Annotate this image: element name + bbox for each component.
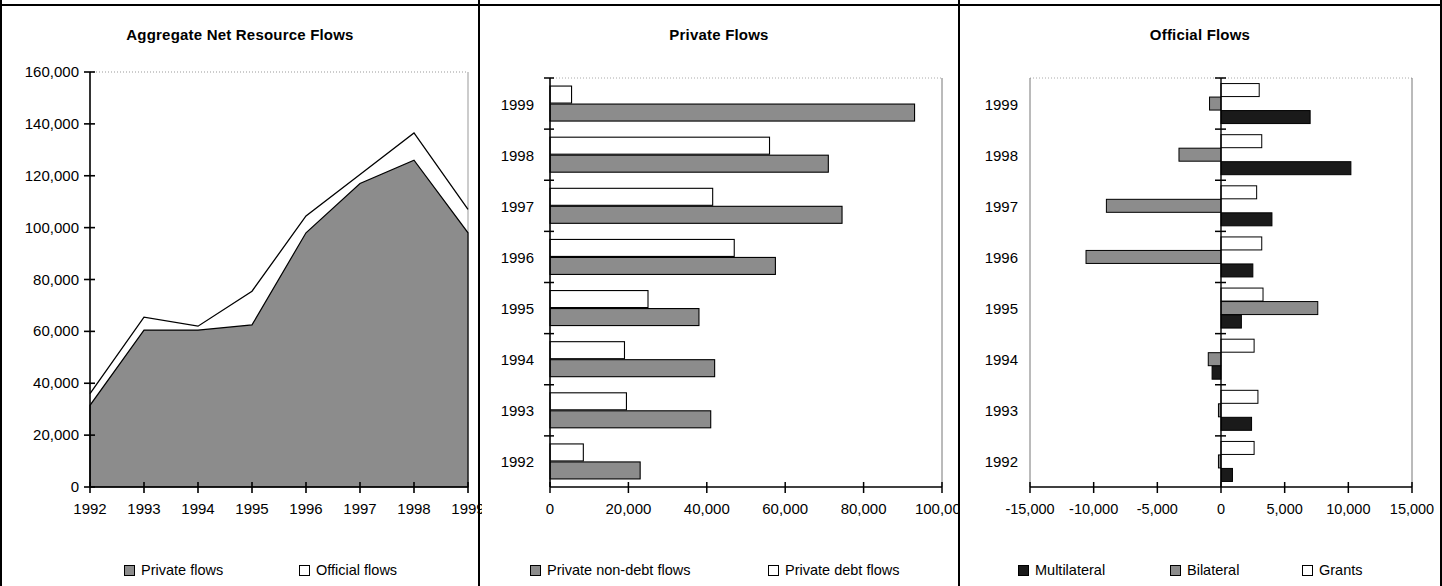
legend-swatch-white-icon (299, 565, 310, 576)
y-axis-category-label: 1997 (501, 198, 534, 215)
x-axis-tick-label: 1996 (289, 500, 322, 517)
panel-private-flows: Private Flows 19921993199419951996199719… (480, 0, 960, 586)
bar-private-non-debt-flows (550, 462, 640, 479)
bar-bilateral (1210, 97, 1221, 110)
y-axis-category-label: 1995 (501, 300, 534, 317)
bar-multilateral (1212, 366, 1221, 379)
bar-private-non-debt-flows (550, 206, 842, 223)
bar-grants (1221, 390, 1258, 403)
y-axis-tick-label: 20,000 (33, 426, 79, 443)
x-axis-tick-label: 100,000 (915, 500, 960, 517)
x-axis-tick-label: 5,000 (1267, 501, 1303, 517)
bar-private-debt-flows (550, 86, 572, 103)
three-panel-chart-figure: Aggregate Net Resource Flows 020,00040,0… (0, 0, 1442, 586)
y-axis-category-label: 1993 (985, 402, 1018, 419)
legend-swatch-white-icon (768, 565, 779, 576)
bar-bilateral (1179, 148, 1221, 161)
x-axis-tick-label: 10,000 (1326, 501, 1370, 517)
y-axis-category-label: 1998 (501, 147, 534, 164)
legend-official-flows: Multilateral Bilateral Grants (960, 562, 1440, 578)
private-flows-area (90, 160, 468, 487)
x-axis-tick-label: 1998 (397, 500, 430, 517)
legend-item-private-non-debt-flows: Private non-debt flows (530, 562, 768, 578)
x-axis-tick-label: 0 (1217, 501, 1225, 517)
x-axis-tick-label: 1997 (343, 500, 376, 517)
legend-label: Grants (1319, 562, 1363, 578)
bar-private-non-debt-flows (550, 257, 775, 274)
y-axis-category-label: 1994 (501, 351, 534, 368)
bar-multilateral (1221, 264, 1253, 277)
bar-multilateral (1221, 315, 1241, 328)
bar-bilateral (1208, 353, 1221, 366)
bar-private-debt-flows (550, 342, 624, 359)
y-axis-tick-label: 0 (71, 478, 79, 495)
x-axis-tick-label: 15,000 (1390, 501, 1434, 517)
legend-item-bilateral: Bilateral (1170, 562, 1302, 578)
y-axis-category-label: 1996 (501, 249, 534, 266)
legend-swatch-white-icon (1302, 565, 1313, 576)
bar-private-debt-flows (550, 137, 770, 154)
bar-grants (1221, 288, 1263, 301)
legend-label: Private non-debt flows (547, 562, 690, 578)
legend-label: Private debt flows (785, 562, 899, 578)
y-axis-tick-label: 80,000 (33, 271, 79, 288)
y-axis-category-label: 1994 (985, 351, 1018, 368)
x-axis-tick-label: 1995 (235, 500, 268, 517)
official-flows-chart-canvas: 19921993199419951996199719981999-15,000-… (960, 0, 1442, 586)
private-flows-chart-canvas: 19921993199419951996199719981999020,0004… (480, 0, 960, 586)
y-axis-tick-label: 140,000 (25, 115, 79, 132)
bar-private-non-debt-flows (550, 411, 711, 428)
y-axis-category-label: 1997 (985, 198, 1018, 215)
y-axis-category-label: 1993 (501, 402, 534, 419)
y-axis-tick-label: 40,000 (33, 374, 79, 391)
y-axis-tick-label: 100,000 (25, 219, 79, 236)
legend-label: Multilateral (1035, 562, 1105, 578)
legend-item-official-flows: Official flows (299, 562, 397, 578)
panel-aggregate-net-resource-flows: Aggregate Net Resource Flows 020,00040,0… (0, 0, 480, 586)
y-axis-category-label: 1996 (985, 249, 1018, 266)
bar-private-non-debt-flows (550, 360, 715, 377)
bar-grants (1221, 186, 1257, 199)
bar-grants (1221, 339, 1254, 352)
bar-multilateral (1221, 162, 1351, 175)
y-axis-category-label: 1999 (985, 96, 1018, 113)
x-axis-tick-label: 80,000 (841, 500, 887, 517)
bar-multilateral (1221, 111, 1310, 124)
bar-private-debt-flows (550, 444, 583, 461)
y-axis-category-label: 1992 (501, 453, 534, 470)
bar-private-non-debt-flows (550, 104, 915, 121)
y-axis-category-label: 1998 (985, 147, 1018, 164)
y-axis-tick-label: 60,000 (33, 322, 79, 339)
y-axis-category-label: 1995 (985, 300, 1018, 317)
bar-bilateral (1086, 250, 1221, 263)
bar-private-non-debt-flows (550, 155, 828, 172)
y-axis-tick-label: 160,000 (25, 63, 79, 80)
bar-multilateral (1221, 213, 1272, 226)
y-axis-tick-label: 120,000 (25, 167, 79, 184)
legend-swatch-gray-icon (530, 565, 541, 576)
legend-swatch-gray-icon (1170, 565, 1181, 576)
bar-grants (1221, 135, 1262, 148)
bar-multilateral (1221, 417, 1252, 430)
legend-private-flows: Private non-debt flows Private debt flow… (480, 562, 958, 578)
bar-multilateral (1221, 468, 1232, 481)
bar-grants (1221, 441, 1254, 454)
legend-item-grants: Grants (1302, 562, 1363, 578)
area-chart-canvas: 020,00040,00060,00080,000100,000120,0001… (2, 0, 482, 586)
bar-bilateral (1106, 199, 1221, 212)
bar-bilateral (1221, 302, 1318, 315)
x-axis-tick-label: 1992 (73, 500, 106, 517)
legend-label: Official flows (316, 562, 397, 578)
x-axis-tick-label: -15,000 (1005, 501, 1054, 517)
legend-swatch-black-icon (1018, 565, 1029, 576)
x-axis-tick-label: 60,000 (762, 500, 808, 517)
y-axis-category-label: 1992 (985, 453, 1018, 470)
bar-private-debt-flows (550, 239, 734, 256)
bar-private-non-debt-flows (550, 309, 699, 326)
x-axis-tick-label: 1993 (127, 500, 160, 517)
x-axis-tick-label: 1999 (451, 500, 482, 517)
bar-private-debt-flows (550, 188, 713, 205)
x-axis-tick-label: 20,000 (605, 500, 651, 517)
legend-item-private-debt-flows: Private debt flows (768, 562, 899, 578)
legend-aggregate: Private flows Official flows (2, 562, 478, 578)
